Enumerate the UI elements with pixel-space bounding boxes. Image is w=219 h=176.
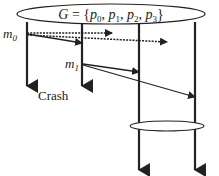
view-change-diagram: G = {p0, p1, p2, p3} m0 m1 Crash (0, 0, 219, 176)
crash-label: Crash (38, 88, 69, 103)
message-m0-label: m0 (3, 26, 17, 43)
message-m1-label: m1 (65, 56, 79, 73)
group-label: G = {p0, p1, p2, p3} (58, 7, 163, 24)
message-m0-to-p3-undelivered (27, 35, 167, 42)
new-view-ellipse (130, 121, 204, 131)
